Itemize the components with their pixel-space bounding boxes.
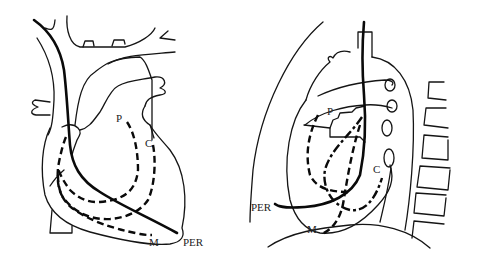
catheter-c-frontal bbox=[58, 135, 155, 219]
label-per-frontal: PER bbox=[183, 236, 204, 248]
chamber-line-middle bbox=[305, 105, 392, 125]
label-c-lateral: C bbox=[373, 163, 380, 175]
svc-small-hook bbox=[45, 20, 55, 30]
right-atrium-stub bbox=[32, 100, 50, 115]
ivc bbox=[50, 210, 72, 233]
heart-catheter-diagram: P C M PER bbox=[0, 0, 477, 262]
vertebra-4 bbox=[417, 166, 450, 190]
heart-upper-outline bbox=[306, 51, 350, 100]
label-per-lateral: PER bbox=[251, 201, 272, 213]
node-4 bbox=[384, 149, 394, 167]
vertebra-2 bbox=[424, 108, 448, 128]
lateral-view-panel: P C M PER bbox=[250, 22, 450, 248]
label-m-frontal: M bbox=[149, 236, 159, 248]
node-2 bbox=[387, 100, 397, 112]
atrium-jagged bbox=[304, 106, 365, 128]
aortic-arch-tick bbox=[160, 31, 175, 40]
chest-wall bbox=[250, 22, 323, 222]
figure: P C M PER bbox=[0, 0, 477, 262]
aortic-arch-knob-2 bbox=[112, 40, 125, 46]
label-p-frontal: P bbox=[116, 112, 122, 124]
svc-left-wall bbox=[37, 38, 54, 135]
vertebra-6 bbox=[412, 221, 444, 238]
label-m-lateral: M bbox=[307, 223, 317, 235]
vertebra-5 bbox=[414, 193, 446, 216]
label-c-frontal: C bbox=[145, 137, 152, 149]
label-p-lateral: P bbox=[327, 105, 333, 117]
frontal-view-panel: P C M PER bbox=[32, 16, 204, 248]
catheter-p-lateral bbox=[308, 115, 348, 192]
aorta-tube bbox=[358, 32, 372, 57]
chamber-line-upper bbox=[318, 80, 393, 96]
vertebra-1 bbox=[428, 82, 446, 100]
vertebra-3 bbox=[422, 135, 448, 160]
aortic-arch-upper bbox=[67, 16, 155, 47]
aortic-arch-knob-1 bbox=[83, 41, 94, 47]
node-3 bbox=[382, 120, 392, 136]
